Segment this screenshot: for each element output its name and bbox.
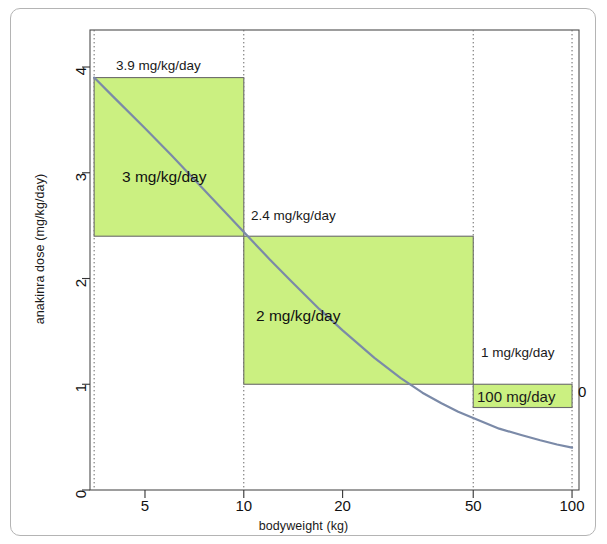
annotation-2.4-mgkgday: 2.4 mg/kg/day [251,208,336,223]
xtick-label-10: 10 [235,497,252,514]
band-label-2mgkgday: 2 mg/kg/day [256,307,340,325]
xtick-label-5: 5 [141,497,149,514]
xtick-label-100: 100 [560,497,585,514]
xtick-label-20: 20 [334,497,351,514]
ytick-label-3: 3 [72,173,89,181]
x-axis-ticks [145,490,572,498]
annotation-1-mgkgday: 1 mg/kg/day [481,345,555,360]
y-axis-title: anakinra dose (mg/kg/day) [33,59,47,439]
annotation-zero-right: 0 [578,383,586,400]
annotation-3.9-mgkgday: 3.9 mg/kg/day [116,58,201,73]
ytick-label-0: 0 [72,490,89,498]
chart-canvas [0,0,607,544]
ytick-label-4: 4 [72,67,89,75]
chart-figure-root: 5 10 20 50 100 0 1 2 3 4 bodyweight (kg)… [0,0,607,544]
xtick-label-50: 50 [465,497,482,514]
x-axis-title: bodyweight (kg) [0,519,607,533]
ytick-label-2: 2 [72,279,89,287]
annotation-100-mgday: 100 mg/day [477,388,555,405]
ytick-label-1: 1 [72,384,89,392]
band-label-3mgkgday: 3 mg/kg/day [122,168,206,186]
